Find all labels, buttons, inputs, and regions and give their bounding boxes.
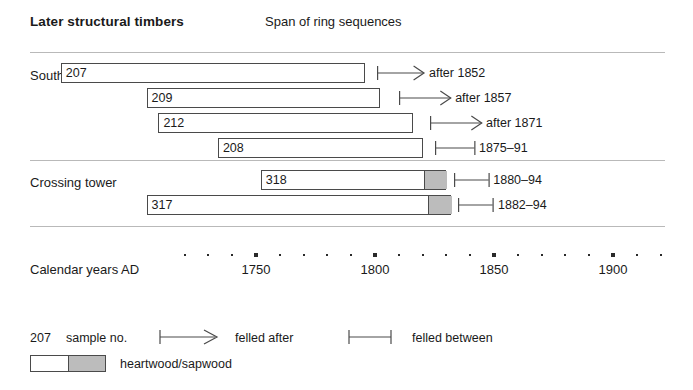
divider-mid	[30, 160, 665, 161]
legend-felled-after-label: felled after	[235, 331, 293, 345]
felled-between-bracket-icon	[458, 195, 494, 215]
axis-tick-minor	[517, 254, 519, 256]
sapwood-segment	[428, 196, 452, 214]
axis-ticks	[0, 250, 693, 260]
sapwood-segment	[424, 171, 448, 189]
felling-date-label: after 1871	[486, 113, 542, 133]
divider-top	[30, 52, 665, 53]
timber-bar[interactable]: 207	[61, 63, 366, 83]
axis-tick-major	[492, 253, 496, 257]
axis-tick-minor	[350, 254, 352, 256]
felled-after-arrow-icon	[430, 113, 482, 133]
felling-date-label: after 1852	[429, 63, 485, 83]
axis-year-label: 1900	[599, 262, 628, 277]
felling-date-label: 1882–94	[498, 195, 547, 215]
chart-subtitle: Span of ring sequences	[265, 14, 402, 29]
sample-number-label: 207	[66, 67, 87, 80]
axis-tick-major	[373, 253, 377, 257]
timber-bar[interactable]: 317	[147, 195, 452, 215]
legend-felled-between-label: felled between	[412, 331, 493, 345]
axis-tick-minor	[303, 254, 305, 256]
axis-tick-minor	[422, 254, 424, 256]
axis-year-label: 1750	[242, 262, 271, 277]
divider-bottom	[30, 226, 665, 227]
timber-bar[interactable]: 212	[158, 113, 413, 133]
legend-sample-no-label: sample no.	[66, 331, 127, 345]
felled-between-bracket-icon	[435, 138, 475, 158]
axis-tick-minor	[588, 254, 590, 256]
felling-date-label: 1875–91	[479, 138, 528, 158]
ring-sequence-chart: Later structural timbers Span of ring se…	[0, 0, 693, 390]
axis-tick-minor	[207, 254, 209, 256]
axis-tick-major	[611, 253, 615, 257]
page-title: Later structural timbers	[30, 14, 184, 29]
legend-heartwood-sapwood-label: heartwood/sapwood	[120, 357, 232, 371]
legend-heartwood-half	[31, 356, 68, 371]
sample-number-label: 209	[152, 92, 173, 105]
axis-year-label: 1800	[361, 262, 390, 277]
felled-between-bracket-icon	[454, 170, 490, 190]
axis-tick-minor	[231, 254, 233, 256]
legend-sapwood-half	[68, 356, 105, 371]
felled-between-bracket-icon	[348, 328, 394, 350]
axis-caption: Calendar years AD	[30, 262, 139, 277]
legend-sample-no-example: 207	[30, 331, 51, 345]
axis-tick-minor	[636, 254, 638, 256]
axis-year-label: 1850	[480, 262, 509, 277]
group-label-crossing-tower: Crossing tower	[30, 175, 117, 190]
heartwood-sapwood-swatch-icon	[30, 355, 106, 372]
felled-after-arrow-icon	[159, 328, 221, 350]
axis-tick-minor	[469, 254, 471, 256]
axis-tick-minor	[445, 254, 447, 256]
felled-after-arrow-icon	[377, 63, 425, 83]
felled-after-arrow-icon	[399, 88, 451, 108]
timber-bar[interactable]: 208	[218, 138, 423, 158]
axis-tick-minor	[279, 254, 281, 256]
axis-tick-minor	[184, 254, 186, 256]
timber-bar[interactable]: 209	[147, 88, 380, 108]
felling-date-label: 1880–94	[493, 170, 542, 190]
axis-tick-minor	[541, 254, 543, 256]
sample-number-label: 317	[152, 199, 173, 212]
felling-date-label: after 1857	[455, 88, 511, 108]
axis-tick-minor	[564, 254, 566, 256]
axis-tick-minor	[660, 254, 662, 256]
axis-tick-major	[254, 253, 258, 257]
sample-number-label: 318	[266, 174, 287, 187]
timber-bar[interactable]: 318	[261, 170, 447, 190]
sample-number-label: 212	[163, 117, 184, 130]
axis-tick-minor	[398, 254, 400, 256]
axis-tick-minor	[326, 254, 328, 256]
sample-number-label: 208	[223, 142, 244, 155]
